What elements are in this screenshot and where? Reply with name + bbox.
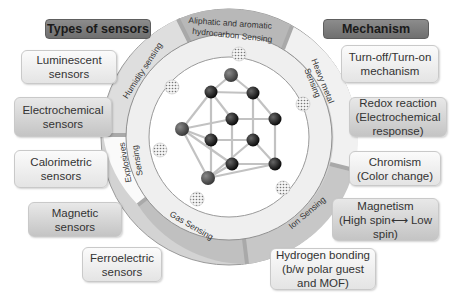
mechanism-hydrogen-bonding: Hydrogen bonding (b/w polar guest and MO… (270, 248, 376, 290)
mechanism-header: Mechanism (323, 19, 429, 39)
sensor-type-luminescent: Luminescent sensors (21, 50, 117, 84)
mechanism-magnetism: Magnetism (High spin⟷ Low spin) (332, 198, 439, 241)
sensor-type-electrochemical: Electrochemical sensors (14, 97, 112, 137)
sensor-type-magnetic: Magnetic sensors (28, 202, 122, 237)
mechanism-turn-off-on: Turn-off/Turn-on mechanism (341, 45, 439, 83)
sensor-type-calorimetric: Calorimetric sensors (14, 150, 108, 188)
sensor-type-ferroelectric: Ferroelectric sensors (82, 247, 162, 282)
mechanism-chromism: Chromism (Color change) (349, 151, 441, 186)
types-of-sensors-header: Types of sensors (45, 19, 151, 39)
mechanism-redox: Redox reaction (Electrochemical response… (349, 97, 447, 137)
